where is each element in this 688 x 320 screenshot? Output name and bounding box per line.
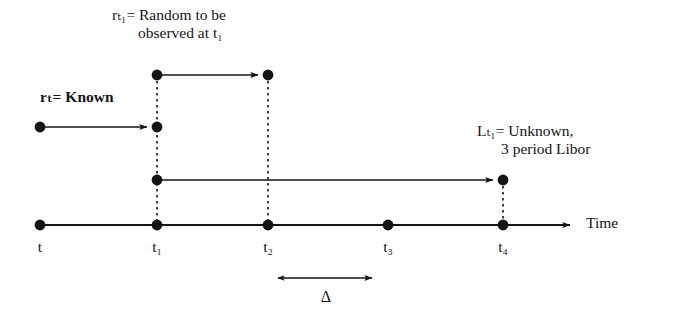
dashed-guides [157,75,503,226]
random-rate-start-dot [152,70,163,81]
libor-annotation: Lₜ₁= Unknown, 3 period Libor [477,122,591,159]
libor-annotation-line2: 3 period Libor [477,140,591,158]
axis-dot-t2 [263,220,274,231]
random-rate-arrow [152,70,274,81]
axis-end-label: Time [586,214,618,232]
axis-tick-label-t2: t₂ [263,238,273,256]
libor-start-dot [152,175,163,186]
delta-label: Δ [321,288,331,307]
axis-dot-t4 [498,220,509,231]
random-rate-annotation-line1: rₜ₁= Random to be [112,6,226,24]
axis-dot-t [35,220,46,231]
axis-tick-label-t3: t₃ [383,238,393,256]
known-rate-annotation-line1: rₜ= Known [40,88,114,106]
time-axis [35,220,570,231]
diagram-canvas [0,0,688,320]
known-rate-arrow [35,122,163,133]
random-rate-annotation-line2: observed at t₁ [112,24,226,42]
axis-dot-t1 [152,220,163,231]
libor-annotation-line1: Lₜ₁= Unknown, [477,122,591,140]
axis-dot-t3 [383,220,394,231]
libor-end-dot [498,175,509,186]
libor-timeline-figure: rₜ₁= Random to be observed at t₁ rₜ= Kno… [0,0,688,320]
axis-tick-label-t4: t₄ [498,238,508,256]
axis-tick-label-t: t [38,238,42,256]
known-rate-start-dot [35,122,46,133]
axis-tick-label-t1: t₁ [152,238,162,256]
known-rate-end-dot [152,122,163,133]
random-rate-end-dot [263,70,274,81]
random-rate-annotation: rₜ₁= Random to be observed at t₁ [112,6,226,43]
libor-arrow [152,175,509,186]
known-rate-annotation: rₜ= Known [40,88,114,106]
